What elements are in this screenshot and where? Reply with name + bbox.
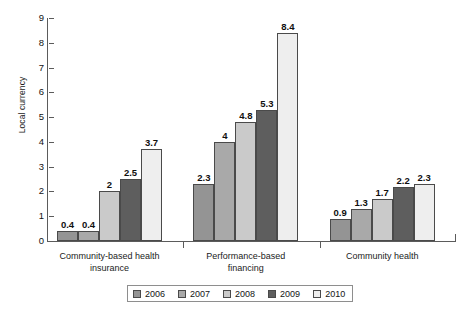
x-axis-category-label: Performance-basedfinancing (178, 250, 314, 274)
x-axis-category-label: Community-based healthinsurance (41, 250, 177, 274)
x-axis-group-divider (183, 241, 184, 248)
bar-group: 0.91.31.72.22.3 (330, 18, 435, 241)
bar-value-label: 2.2 (397, 175, 410, 186)
legend-item[interactable]: 2009 (268, 289, 300, 299)
bar-chart-figure: Local currency 9876543210 0.40.422.53.72… (0, 0, 473, 311)
legend-item[interactable]: 2007 (178, 289, 210, 299)
y-axis-tick-label: 5 (20, 111, 44, 122)
legend-swatch-icon (268, 290, 276, 298)
bar[interactable]: 0.4 (57, 231, 78, 241)
bar[interactable]: 2.2 (393, 187, 414, 242)
bar-value-label: 2.3 (418, 172, 431, 183)
legend-item[interactable]: 2008 (223, 289, 255, 299)
bar-value-label: 3.7 (145, 137, 158, 148)
y-axis-tick-label: 4 (20, 136, 44, 147)
bar-value-label: 0.9 (334, 207, 347, 218)
legend-label: 2007 (190, 289, 210, 299)
y-axis-tick-label: 8 (20, 37, 44, 48)
legend-swatch-icon (313, 290, 321, 298)
y-axis-tick-label: 6 (20, 86, 44, 97)
bar[interactable]: 5.3 (256, 110, 277, 241)
bar-value-label: 4.8 (239, 110, 252, 121)
y-axis-tick-label: 2 (20, 185, 44, 196)
x-axis-category-label-line: Community-based health (41, 250, 177, 262)
bar-value-label: 2 (107, 179, 112, 190)
legend-label: 2010 (325, 289, 345, 299)
bar-group: 2.344.85.38.4 (193, 18, 298, 241)
bar[interactable]: 1.7 (372, 199, 393, 241)
x-axis-category-label-line: insurance (41, 262, 177, 274)
y-axis-tick-label: 1 (20, 210, 44, 221)
bar[interactable]: 2.3 (193, 184, 214, 241)
bar[interactable]: 2.3 (414, 184, 435, 241)
bar[interactable]: 1.3 (351, 209, 372, 241)
bar[interactable]: 2 (99, 191, 120, 241)
bar-value-label: 0.4 (82, 219, 95, 230)
plot-area: 0.40.422.53.72.344.85.38.40.91.31.72.22.… (47, 18, 456, 241)
bar-value-label: 0.4 (61, 219, 74, 230)
x-axis-line (47, 241, 456, 242)
bar[interactable]: 0.9 (330, 219, 351, 241)
y-axis-tick-label: 3 (20, 161, 44, 172)
y-axis-tick-label: 7 (20, 62, 44, 73)
legend-swatch-icon (133, 290, 141, 298)
x-axis-group-divider (320, 241, 321, 248)
bar[interactable]: 2.5 (120, 179, 141, 241)
legend-item[interactable]: 2006 (133, 289, 165, 299)
bar-value-label: 2.5 (124, 167, 137, 178)
bar[interactable]: 3.7 (141, 149, 162, 241)
legend-label: 2006 (145, 289, 165, 299)
bar[interactable]: 0.4 (78, 231, 99, 241)
bar-value-label: 2.3 (197, 172, 210, 183)
bar[interactable]: 8.4 (277, 33, 298, 241)
legend-swatch-icon (178, 290, 186, 298)
bar-value-label: 8.4 (281, 21, 294, 32)
legend-label: 2008 (235, 289, 255, 299)
x-axis-category-label-line: Community health (314, 250, 450, 262)
x-axis-end-tick (455, 234, 456, 242)
x-axis-category-label-line: financing (178, 262, 314, 274)
legend-item[interactable]: 2010 (313, 289, 345, 299)
bar-value-label: 4 (222, 130, 227, 141)
bar[interactable]: 4.8 (235, 122, 256, 241)
legend-label: 2009 (280, 289, 300, 299)
bar[interactable]: 4 (214, 142, 235, 241)
chart-legend: 20062007200820092010 (127, 285, 353, 302)
legend-swatch-icon (223, 290, 231, 298)
y-axis-tick-label: 9 (20, 12, 44, 23)
bar-value-label: 1.3 (355, 197, 368, 208)
bar-value-label: 5.3 (260, 98, 273, 109)
bar-group: 0.40.422.53.7 (57, 18, 162, 241)
bar-value-label: 1.7 (376, 187, 389, 198)
y-axis-tick-label: 0 (20, 235, 44, 246)
x-axis-category-label-line: Performance-based (178, 250, 314, 262)
x-axis-category-label: Community health (314, 250, 450, 262)
